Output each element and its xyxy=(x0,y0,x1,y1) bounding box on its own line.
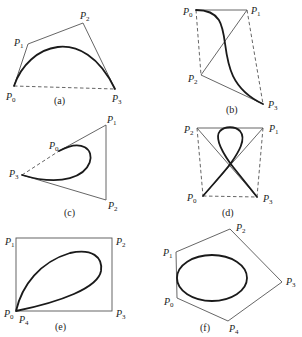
bezier-curves-figure: P1 P2 P0 P3 (a) P0 P1 P2 P3 (b) P0 P1 P2… xyxy=(0,0,302,337)
label-p1: P1 xyxy=(13,37,24,50)
label-p3: P3 xyxy=(115,308,126,321)
caption-d: (d) xyxy=(222,207,234,219)
label-p0: P0 xyxy=(48,140,59,153)
panel-d: P2 P1 P0 P3 (d) xyxy=(183,123,279,219)
closing-dashed-line xyxy=(22,151,59,175)
label-p0: P0 xyxy=(182,6,193,19)
bezier-curve xyxy=(16,252,101,311)
label-p1: P1 xyxy=(4,236,15,249)
label-p2: P2 xyxy=(183,124,194,137)
label-p0: P0 xyxy=(186,192,197,205)
dashed-line-p1-p3 xyxy=(257,128,263,197)
dashed-line-p0-p2 xyxy=(196,10,201,75)
bezier-curve-loop xyxy=(203,127,257,197)
dashed-line-p1-p3 xyxy=(247,10,263,104)
control-polygon-pentagon xyxy=(176,229,282,321)
label-p0: P0 xyxy=(163,296,174,309)
label-p2: P2 xyxy=(235,222,246,235)
label-p3: P3 xyxy=(262,193,273,206)
label-p3: P3 xyxy=(111,93,122,106)
label-p1: P1 xyxy=(162,247,173,260)
label-p0: P0 xyxy=(5,91,16,104)
control-polygon xyxy=(196,10,263,104)
dashed-line-p2-p0 xyxy=(197,128,203,196)
label-p2: P2 xyxy=(115,236,126,249)
label-p1: P1 xyxy=(250,5,261,18)
caption-e: (e) xyxy=(55,321,66,333)
control-polygon xyxy=(22,125,106,200)
label-p3: P3 xyxy=(8,168,19,181)
panel-a: P1 P2 P0 P3 (a) xyxy=(5,10,122,107)
panel-c: P0 P1 P2 P3 (c) xyxy=(8,114,118,219)
label-p2: P2 xyxy=(79,10,90,23)
bezier-curve xyxy=(196,10,263,104)
control-polygon-rectangle xyxy=(16,238,112,311)
closed-curve-ellipse xyxy=(177,255,247,301)
label-p0: P0 xyxy=(3,308,14,321)
caption-f: (f) xyxy=(200,322,210,334)
control-polygon xyxy=(14,23,115,89)
label-p4: P4 xyxy=(18,314,29,327)
label-p2: P2 xyxy=(107,200,118,213)
dashed-line-p0-p3 xyxy=(203,196,257,197)
bezier-curve xyxy=(14,47,115,89)
panel-b: P0 P1 P2 P3 (b) xyxy=(182,5,278,116)
caption-c: (c) xyxy=(64,207,75,219)
label-p1: P1 xyxy=(268,123,279,136)
label-p3: P3 xyxy=(267,99,278,112)
label-p3: P3 xyxy=(285,276,296,289)
label-p4: P4 xyxy=(228,323,239,336)
panel-f: P1 P2 P3 P0 P4 (f) xyxy=(162,222,296,336)
caption-a: (a) xyxy=(54,95,65,107)
panel-e: P1 P2 P0 P4 P3 (e) xyxy=(3,236,126,333)
label-p1: P1 xyxy=(106,114,117,127)
closing-dashed-line xyxy=(14,86,115,89)
label-p2: P2 xyxy=(187,73,198,86)
caption-b: (b) xyxy=(226,104,238,116)
